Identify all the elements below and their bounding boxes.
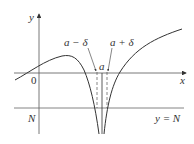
a-minus-delta-label: a − δ [64,36,88,48]
origin-label: 0 [31,74,37,86]
pointer-a-minus-delta [88,48,96,71]
N-label: N [27,112,36,124]
diagram-canvas: y x 0 N y = N a − δ a + δ a [0,0,194,144]
y-equals-N-label: y = N [154,112,181,124]
a-label: a [99,60,105,72]
y-axis-label: y [28,11,34,23]
x-axis-label: x [179,74,185,86]
a-plus-delta-label: a + δ [110,36,134,48]
pointer-a-plus-delta [108,48,112,71]
